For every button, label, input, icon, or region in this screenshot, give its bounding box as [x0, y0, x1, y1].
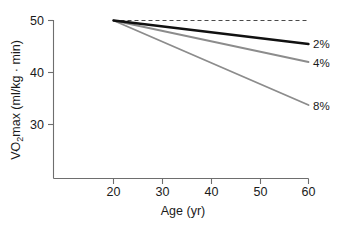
series-label-8pct: 8% — [313, 100, 330, 112]
x-tick-label-40: 40 — [205, 185, 219, 199]
vo2max-decline-line-chart: 50 40 30 20 30 40 50 60 Age (yr) V̇O2max… — [0, 0, 347, 229]
x-tick-label-60: 60 — [302, 185, 316, 199]
x-tick-label-20: 20 — [107, 185, 121, 199]
x-tick-label-50: 50 — [254, 185, 268, 199]
x-tick-label-30: 30 — [156, 185, 170, 199]
y-axis-title: V̇O2max (ml/kg · min) — [9, 40, 25, 160]
y-tick-label-30: 30 — [30, 118, 44, 132]
y-axis-title-o-letter: O — [9, 141, 23, 151]
series-label-4pct: 4% — [313, 57, 330, 69]
series-label-2pct: 2% — [313, 38, 330, 50]
x-axis-title: Age (yr) — [161, 204, 205, 218]
chart-background — [0, 0, 347, 229]
y-tick-label-50: 50 — [30, 14, 44, 28]
y-axis-title-text: V̇O2max (ml/kg · min) — [9, 40, 25, 160]
y-tick-label-40: 40 — [30, 66, 44, 80]
chart-figure: 50 40 30 20 30 40 50 60 Age (yr) V̇O2max… — [0, 0, 347, 229]
y-axis-title-units: max (ml/kg · min) — [9, 40, 23, 137]
